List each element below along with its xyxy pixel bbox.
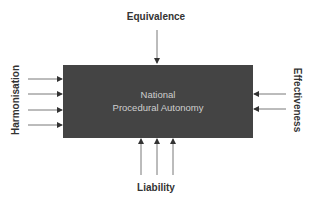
arrows-layer — [0, 0, 312, 204]
liability-arrows-icon — [141, 139, 173, 175]
harmonisation-arrows-icon — [28, 79, 62, 125]
effectiveness-arrows-icon — [254, 94, 286, 109]
